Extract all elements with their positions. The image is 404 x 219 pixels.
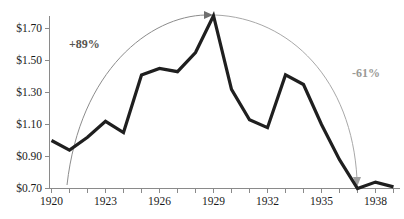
y-tick-label: $0.70 [16,182,42,194]
y-axis-ticks [45,29,50,189]
annotation-label-down: -61% [352,66,380,80]
x-axis-ticks [52,189,394,194]
x-tick-label: 1926 [148,195,171,207]
y-tick-label: $1.70 [16,22,42,34]
x-tick-label: 1935 [310,195,333,207]
x-tick-label: 1923 [94,195,117,207]
y-axis: $1.70 $1.50 $1.30 $1.10 $0.90 $0.70 [16,16,49,194]
chart-canvas: $1.70 $1.50 $1.30 $1.10 $0.90 $0.70 [0,0,404,219]
y-tick-label: $0.90 [16,150,42,162]
x-axis: 1920 1923 1926 1929 1932 1935 1938 [40,189,400,208]
line-chart: $1.70 $1.50 $1.30 $1.10 $0.90 $0.70 [0,0,404,219]
y-tick-label: $1.50 [16,54,42,66]
y-tick-label: $1.10 [16,118,42,130]
y-tick-label: $1.30 [16,86,42,98]
x-tick-label: 1932 [256,195,279,207]
annotation-label-up: +89% [69,37,100,51]
data-series-line [52,16,394,189]
x-tick-label: 1920 [40,195,63,207]
x-tick-label: 1938 [364,195,387,207]
x-tick-label: 1929 [202,195,225,207]
